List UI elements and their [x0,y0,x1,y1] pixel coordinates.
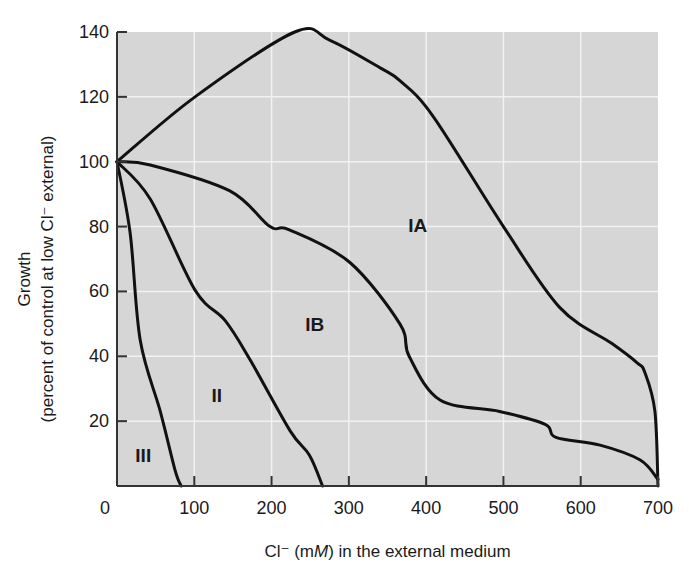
x-tick-label: 300 [334,498,364,518]
y-tick-label: 120 [79,87,109,107]
salinity-growth-chart: 0100200300400500600700 20406080100120140… [0,0,689,576]
x-tick-label: 700 [643,498,673,518]
x-axis-title: Cl⁻ (mM) in the external medium [264,542,510,561]
plot-background [117,32,658,486]
region-label-ia: IA [408,215,427,236]
x-tick-label: 600 [566,498,596,518]
y-tick-label: 100 [79,152,109,172]
y-tick-label: 40 [89,346,109,366]
region-label-iii: III [135,445,151,466]
x-tick-label: 400 [411,498,441,518]
x-tick-label: 0 [100,498,110,518]
x-tick-label: 500 [488,498,518,518]
y-tick-label: 20 [89,411,109,431]
y-axis-title-line1: Growth [15,252,34,307]
region-label-ib: IB [305,314,324,335]
y-tick-labels: 20406080100120140 [79,22,109,431]
y-axis-title-line2: (percent of control at low Cl⁻ external) [38,136,57,423]
y-axis-title: Growth(percent of control at low Cl⁻ ext… [15,136,57,423]
y-tick-label: 80 [89,217,109,237]
y-tick-label: 60 [89,281,109,301]
x-tick-labels: 0100200300400500600700 [100,498,673,518]
y-tick-label: 140 [79,22,109,42]
x-tick-label: 200 [257,498,287,518]
x-tick-label: 100 [179,498,209,518]
region-label-ii: II [211,385,222,406]
